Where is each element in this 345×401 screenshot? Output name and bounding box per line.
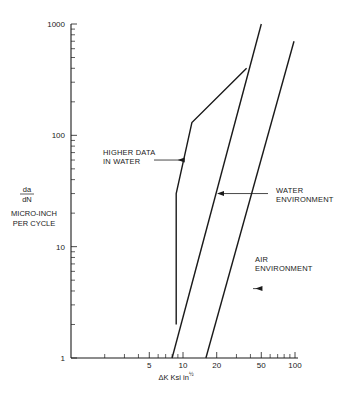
y-tick-label: 100 [52, 131, 66, 140]
arrowhead-icon [255, 286, 262, 291]
annotation-text: WATER [276, 186, 304, 195]
y-tick-label: 1 [61, 354, 66, 363]
higher-data-in-water-line [176, 68, 246, 324]
y-tick-label: 1000 [47, 20, 65, 29]
annotation-text: HIGHER DATA [103, 148, 155, 157]
x-tick-label: 50 [257, 361, 266, 370]
arrowhead-icon [217, 191, 224, 196]
ticks: 51020501001101001000 [47, 20, 302, 370]
y-label-denominator: dN [22, 195, 32, 204]
annotation-text: AIR [255, 255, 268, 264]
y-label-line-2: PER CYCLE [13, 219, 56, 228]
x-tick-label: 5 [147, 361, 152, 370]
arrowhead-icon [178, 158, 185, 163]
y-tick-label: 10 [56, 243, 65, 252]
water-environment-line [172, 24, 261, 358]
x-label-text: ΔK Ksi in [158, 373, 188, 382]
x-label-superscript: ½ [189, 371, 194, 377]
x-tick-label: 20 [212, 361, 221, 370]
y-label-line-1: MICRO-INCH [11, 209, 57, 218]
x-label-main: ΔK Ksi in½ [158, 371, 193, 382]
annotation-text: IN WATER [103, 157, 141, 166]
crack-growth-chart: 51020501001101001000 HIGHER DATAIN WATER… [0, 0, 345, 401]
annotation-higher-data: HIGHER DATAIN WATER [103, 148, 185, 166]
x-axis-label: ΔK Ksi in½ [158, 371, 193, 382]
annotation-text: ENVIRONMENT [255, 264, 313, 273]
annotation-water-environment: WATERENVIRONMENT [217, 186, 334, 204]
x-tick-label: 10 [179, 361, 188, 370]
annotations: HIGHER DATAIN WATERWATERENVIRONMENTAIREN… [103, 148, 334, 291]
x-tick-label: 100 [288, 361, 302, 370]
annotation-air-environment: AIRENVIRONMENT [253, 255, 313, 291]
annotation-text: ENVIRONMENT [276, 195, 334, 204]
axes [71, 24, 298, 358]
y-axis-label: da dN MICRO-INCH PER CYCLE [11, 185, 57, 228]
y-label-numerator: da [23, 185, 32, 194]
